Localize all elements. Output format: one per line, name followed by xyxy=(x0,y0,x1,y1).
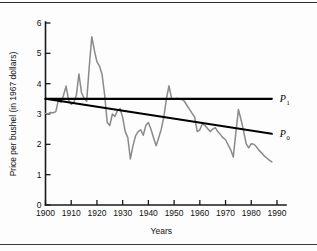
x-tick-label-1990: 1990 xyxy=(268,208,287,218)
x-tick-label-1950: 1950 xyxy=(165,208,184,218)
x-tick-label-1900: 1900 xyxy=(36,208,55,218)
x-axis-title: Years xyxy=(151,226,172,236)
series-label-p1: P1 xyxy=(279,93,290,106)
y-axis-tick-labels: 0123456 xyxy=(37,18,42,210)
x-tick-label-1960: 1960 xyxy=(190,208,209,218)
price-trend-line-chart: 0123456 19001910192019301940195019601970… xyxy=(0,0,317,251)
y-axis-title: Price per bushel (in 1967 dollars) xyxy=(8,51,18,176)
x-tick-label-1940: 1940 xyxy=(139,208,158,218)
series-label-p0: P0 xyxy=(279,128,290,141)
y-tick-label-6: 6 xyxy=(37,18,42,28)
x-tick-label-1980: 1980 xyxy=(242,208,261,218)
x-tick-label-1930: 1930 xyxy=(113,208,132,218)
x-axis-tick-labels: 1900191019201930194019501960197019801990 xyxy=(36,208,287,218)
y-tick-label-1: 1 xyxy=(37,170,42,180)
x-tick-label-1910: 1910 xyxy=(62,208,81,218)
figure-root: 0123456 19001910192019301940195019601970… xyxy=(0,0,317,251)
y-tick-label-5: 5 xyxy=(37,48,42,58)
y-tick-label-4: 4 xyxy=(37,79,42,89)
y-tick-label-3: 3 xyxy=(37,109,42,119)
x-tick-label-1970: 1970 xyxy=(216,208,235,218)
y-tick-label-2: 2 xyxy=(37,139,42,149)
series-labels-group: P1P0 xyxy=(279,93,290,140)
x-tick-label-1920: 1920 xyxy=(87,208,106,218)
